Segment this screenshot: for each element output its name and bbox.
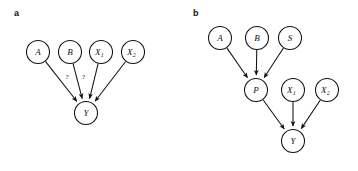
node-label: A <box>34 47 41 57</box>
node-label-subscript: 1 <box>293 90 296 96</box>
node-label: B <box>67 47 73 57</box>
node-b-S: S <box>279 27 302 50</box>
node-a-X2: X2 <box>122 41 145 64</box>
node-a-A: A <box>27 41 50 64</box>
node-b-Y: Y <box>282 130 305 153</box>
node-label: S <box>288 33 293 43</box>
node-a-B: B <box>59 41 82 64</box>
edge-label-a-B-Y: ? <box>82 73 85 81</box>
node-b-X2: X2 <box>316 79 339 102</box>
node-label-subscript: 2 <box>133 52 136 58</box>
causal-dag-figure: a??ABX1X2YbABSPX1X2Y <box>0 0 358 171</box>
node-label-subscript: 2 <box>327 90 330 96</box>
node-b-B: B <box>246 27 269 50</box>
node-a-Y: Y <box>75 102 98 125</box>
node-label: P <box>252 85 259 95</box>
node-label: A <box>216 33 223 43</box>
node-b-X1: X1 <box>282 79 305 102</box>
figure-background <box>0 0 358 171</box>
node-b-P: P <box>245 79 268 102</box>
panel-letter-label: b <box>193 8 199 18</box>
node-b-A: A <box>209 27 232 50</box>
node-label: B <box>254 33 260 43</box>
node-label-subscript: 1 <box>101 52 104 58</box>
node-a-X1: X1 <box>90 41 113 64</box>
edge-label-a-A-Y: ? <box>66 73 69 81</box>
